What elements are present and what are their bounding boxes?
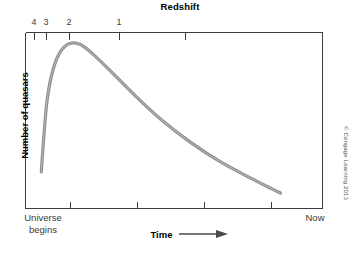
quasar-redshift-figure: Redshift 4 3 2 1 Number of bbox=[0, 0, 360, 253]
x-axis-end-label: Now bbox=[291, 212, 339, 223]
bottom-axis-ticks bbox=[71, 202, 272, 209]
x-axis-label: Time bbox=[150, 229, 172, 240]
y-axis-label: Number of quasars bbox=[19, 46, 30, 186]
arrow-right-icon bbox=[178, 228, 230, 240]
x-axis-start-label: Universe begins bbox=[11, 212, 75, 236]
quasar-count-curve bbox=[41, 43, 280, 193]
axis-frame bbox=[26, 33, 323, 209]
top-axis-ticks bbox=[35, 33, 186, 40]
x-axis-label-group: Time bbox=[120, 228, 260, 240]
copyright-credit: © Cengage Learning 2013 bbox=[343, 83, 349, 243]
